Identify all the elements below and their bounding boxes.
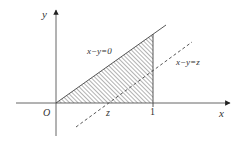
x-axis-label: x [218, 107, 224, 119]
y-axis-label: y [41, 8, 47, 20]
z-tick-label: z [105, 107, 110, 118]
dashed-line-label: x−y=z [175, 57, 200, 67]
origin-label: O [43, 107, 50, 118]
diagram-canvas: y x O z 1 x−y=0 x−y=z [0, 0, 240, 145]
one-tick-label: 1 [150, 106, 155, 117]
solid-line-label: x−y=0 [86, 46, 112, 56]
